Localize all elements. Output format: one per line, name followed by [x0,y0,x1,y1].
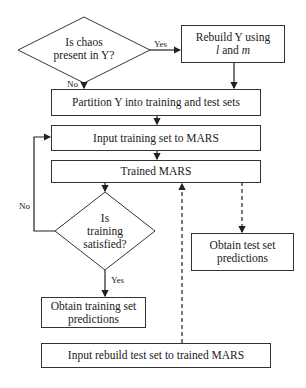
input-training-label: Input training set to MARS [93,132,219,145]
obtain-test-line1: Obtain test set [210,239,276,252]
partition-label: Partition Y into training and test sets [72,96,240,109]
decision-training-text: Is training satisfied? [65,212,145,251]
rebuild-and: and [219,44,241,56]
input-training-box: Input training set to MARS [51,125,261,151]
rebuild-line2: l and m [216,44,250,57]
edge-label-yes-training: Yes [111,275,124,285]
rebuild-line1: Rebuild Y using [196,31,271,44]
rebuild-y-box: Rebuild Y using l and m [181,25,285,63]
edge-label-yes-chaos: Yes [154,39,167,49]
input-rebuild-box: Input rebuild test set to trained MARS [41,343,271,368]
trained-mars-box: Trained MARS [51,160,261,183]
obtain-training-line1: Obtain training set [51,300,137,313]
decision-training-line2: training [65,225,145,238]
input-rebuild-label: Input rebuild test set to trained MARS [68,349,244,362]
decision-chaos-line2: present in Y? [34,49,134,62]
decision-chaos-text: Is chaos present in Y? [34,36,134,62]
obtain-test-box: Obtain test set predictions [191,233,294,271]
partition-box: Partition Y into training and test sets [51,89,261,116]
edge-label-no-training: No [19,201,30,211]
decision-training-line3: satisfied? [65,238,145,251]
var-m: m [242,44,250,56]
trained-mars-label: Trained MARS [121,165,192,178]
edge-label-no-chaos: No [67,79,78,89]
obtain-test-line2: predictions [217,252,268,265]
decision-training-line1: Is [65,212,145,225]
decision-chaos-line1: Is chaos [34,36,134,49]
obtain-training-box: Obtain training set predictions [41,297,146,328]
obtain-training-line2: predictions [68,313,119,326]
